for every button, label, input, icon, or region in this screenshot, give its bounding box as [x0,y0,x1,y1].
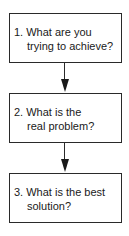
step-1-text: 1. What are you trying to achieve? [14,25,113,53]
step-3-line-2: solution? [14,199,105,213]
step-3-text: 3. What is the best solution? [14,185,105,213]
connector-1-2 [64,63,65,80]
step-3-box: 3. What is the best solution? [9,173,122,223]
step-1-line-1: 1. What are you [14,26,92,38]
step-3-line-1: 3. What is the best [14,186,105,198]
step-2-line-2: real problem? [14,119,94,133]
step-1-box: 1. What are you trying to achieve? [9,13,122,63]
step-1-line-2: trying to achieve? [14,39,113,53]
step-2-text: 2. What is the real problem? [14,105,94,133]
connector-2-3 [64,143,65,160]
step-2-line-1: 2. What is the [14,106,81,118]
arrow-down-icon [61,159,69,172]
step-2-box: 2. What is the real problem? [9,93,122,143]
arrow-down-icon [61,79,69,92]
